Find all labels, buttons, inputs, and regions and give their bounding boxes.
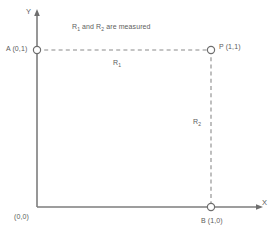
x-axis-label: X	[262, 198, 267, 207]
figure-title: R1 and R2 are measured	[72, 22, 151, 31]
origin-label: (0,0)	[14, 212, 29, 221]
r2-subscript: 2	[198, 121, 201, 127]
point-label-b: B (1,0)	[201, 216, 223, 225]
diagram-canvas	[0, 0, 277, 237]
point-marker-a	[33, 46, 40, 53]
coordinate-diagram: R1 and R2 are measured A (0,1) P (1,1) B…	[0, 0, 277, 237]
point-marker-p	[207, 46, 214, 53]
segment-label-r2: R2	[193, 117, 201, 126]
point-marker-b	[207, 203, 214, 210]
title-tail-text: are measured	[104, 23, 150, 30]
title-middle-text: and R	[80, 23, 101, 30]
segment-label-r1: R1	[113, 58, 121, 67]
r1-subscript: 1	[118, 62, 121, 68]
point-label-a: A (0,1)	[6, 44, 27, 53]
y-axis-label: Y	[26, 7, 31, 16]
point-label-p: P (1,1)	[219, 42, 241, 51]
y-axis-arrowhead	[34, 9, 40, 16]
